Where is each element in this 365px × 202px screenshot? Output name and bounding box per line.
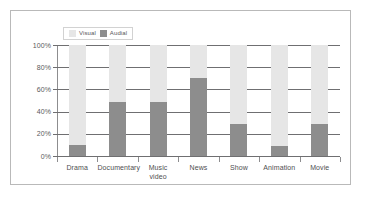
y-tick-label: 40% [9, 108, 51, 115]
x-axis-label: Movie [300, 164, 340, 173]
x-tick-mark [178, 157, 179, 162]
x-axis-label: Show [219, 164, 259, 173]
legend-label-visual: Visual [79, 30, 96, 37]
bar-segment-audial [190, 78, 207, 156]
x-tick-mark [57, 157, 58, 162]
x-axis-label: Animation [259, 164, 299, 173]
x-tick-mark [138, 157, 139, 162]
bar-column [271, 45, 288, 156]
y-tick-label: 20% [9, 130, 51, 137]
x-axis-label: Documentary [97, 164, 137, 173]
legend-item-visual: Visual [69, 30, 96, 37]
bar-column [230, 45, 247, 156]
bar-segment-audial [150, 102, 167, 156]
bar-segment-visual [150, 45, 167, 102]
y-tick-label: 80% [9, 64, 51, 71]
y-tick-label: 60% [9, 86, 51, 93]
x-tick-mark [97, 157, 98, 162]
x-axis-label: News [178, 164, 218, 173]
x-tick-mark [340, 157, 341, 162]
legend-label-audial: Audial [110, 30, 127, 37]
chart-frame: Visual Audial 100%80%60%40%20%0% DramaDo… [10, 10, 351, 185]
bar-segment-audial [109, 102, 126, 156]
bar-segment-audial [230, 124, 247, 156]
plot-area [57, 45, 340, 156]
bar-segment-visual [230, 45, 247, 124]
bar-column [190, 45, 207, 156]
bar-column [150, 45, 167, 156]
bar-segment-audial [311, 124, 328, 156]
bar-segment-visual [271, 45, 288, 146]
legend-swatch-visual [69, 30, 76, 37]
bar-segment-visual [311, 45, 328, 124]
legend-swatch-audial [100, 30, 107, 37]
bar-column [311, 45, 328, 156]
x-tick-mark [300, 157, 301, 162]
bar-segment-audial [69, 145, 86, 156]
chart-legend: Visual Audial [63, 27, 133, 40]
y-tick-label: 0% [9, 153, 51, 160]
bar-segment-visual [190, 45, 207, 78]
y-tick-label: 100% [9, 42, 51, 49]
x-tick-mark [259, 157, 260, 162]
x-tick-mark [219, 157, 220, 162]
x-axis-label: Music video [138, 164, 178, 181]
x-axis-label: Drama [57, 164, 97, 173]
bar-column [109, 45, 126, 156]
bar-segment-visual [109, 45, 126, 102]
bar-segment-audial [271, 146, 288, 156]
bar-segment-visual [69, 45, 86, 145]
x-axis-line [57, 156, 340, 157]
legend-item-audial: Audial [100, 30, 127, 37]
bar-column [69, 45, 86, 156]
